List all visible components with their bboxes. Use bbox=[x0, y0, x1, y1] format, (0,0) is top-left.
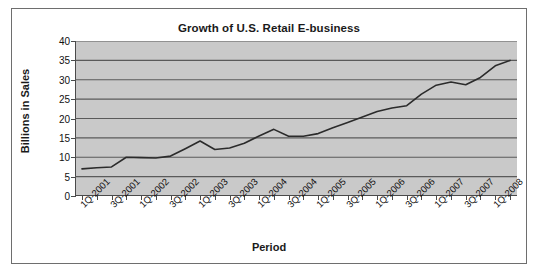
y-tick-label: 15 bbox=[59, 132, 70, 143]
y-tick-label: 5 bbox=[64, 171, 70, 182]
y-tick-mark bbox=[71, 157, 76, 158]
y-tick-mark bbox=[71, 177, 76, 178]
data-line-svg bbox=[75, 41, 517, 196]
y-tick-mark bbox=[71, 119, 76, 120]
chart-container: Growth of U.S. Retail E-business Billion… bbox=[11, 8, 527, 264]
data-series-line bbox=[82, 60, 510, 169]
y-tick-label: 10 bbox=[59, 152, 70, 163]
y-tick-label: 30 bbox=[59, 74, 70, 85]
y-tick-mark bbox=[71, 80, 76, 81]
y-tick-label: 35 bbox=[59, 55, 70, 66]
y-tick-label: 25 bbox=[59, 94, 70, 105]
y-tick-label: 20 bbox=[59, 113, 70, 124]
y-tick-label: 0 bbox=[64, 191, 70, 202]
y-tick-mark bbox=[71, 60, 76, 61]
chart-title: Growth of U.S. Retail E-business bbox=[12, 22, 526, 34]
y-axis-title: Billions in Sales bbox=[19, 36, 31, 186]
y-tick-mark bbox=[71, 99, 76, 100]
x-axis-title: Period bbox=[12, 241, 526, 253]
gridlines bbox=[75, 41, 517, 177]
plot-wrapper: 0510152025303540 1Q-20013Q-20011Q-20023Q… bbox=[75, 41, 517, 196]
y-tick-mark bbox=[71, 138, 76, 139]
y-tick-label: 40 bbox=[59, 36, 70, 47]
y-tick-mark bbox=[71, 196, 76, 197]
y-tick-mark bbox=[71, 41, 76, 42]
